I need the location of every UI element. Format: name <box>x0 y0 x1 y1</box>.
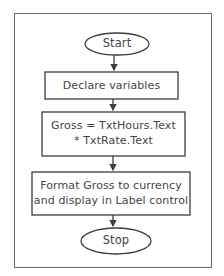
format-line-2: and display in Label control <box>32 193 190 208</box>
stop-label: Stop <box>81 233 151 248</box>
gross-line-1: Gross = TxtHours.Text <box>42 118 185 133</box>
declare-label: Declare variables <box>45 78 178 93</box>
gross-label: Gross = TxtHours.Text * TxtRate.Text <box>42 118 185 148</box>
start-label: Start <box>85 36 149 51</box>
format-line-1: Format Gross to currency <box>32 178 190 193</box>
gross-line-2: * TxtRate.Text <box>42 133 185 148</box>
format-label: Format Gross to currency and display in … <box>32 178 190 208</box>
